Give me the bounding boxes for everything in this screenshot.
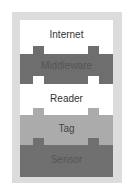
layer-label-sensor: Sensor (20, 154, 113, 166)
layer-label-internet: Internet (20, 29, 113, 41)
sensor-tab-left (33, 138, 44, 145)
sensor-tab-right (88, 138, 99, 145)
tag-tab-left (33, 108, 44, 115)
middleware-tab-right (88, 46, 99, 54)
tag-tab-right (88, 108, 99, 115)
middleware-notch-right (88, 76, 99, 84)
middleware-notch-left (33, 76, 44, 84)
layer-label-tag: Tag (20, 123, 113, 135)
layer-label-middleware: Middleware (20, 60, 113, 72)
layer-label-reader: Reader (20, 93, 113, 105)
middleware-tab-left (33, 46, 44, 54)
